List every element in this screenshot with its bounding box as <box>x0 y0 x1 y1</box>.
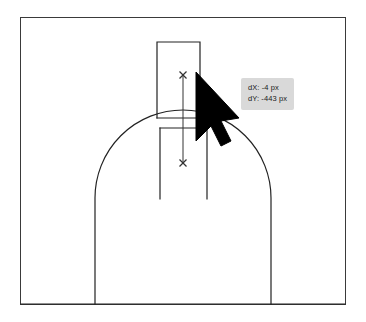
application-root: dX: -4 px dY: -443 px <box>0 0 366 322</box>
tooltip-dy-row: dY: -443 px <box>248 94 287 105</box>
tooltip-dx-row: dX: -4 px <box>248 83 287 94</box>
drawing-canvas-frame[interactable] <box>20 17 346 305</box>
drag-delta-tooltip: dX: -4 px dY: -443 px <box>241 78 294 110</box>
